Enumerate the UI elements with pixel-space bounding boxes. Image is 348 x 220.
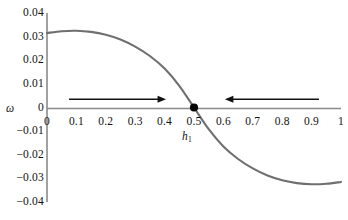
right-arrow-icon	[225, 96, 319, 103]
x-tick-label: 0.8	[271, 116, 293, 128]
x-tick-label: 1	[330, 116, 348, 128]
x-tick-label: 0	[36, 116, 58, 128]
left-arrow-icon	[69, 96, 166, 103]
x-tick-label: 0.9	[301, 116, 323, 128]
x-tick-label: 0.3	[124, 116, 146, 128]
y-tick-label: 0	[38, 102, 44, 114]
y-tick-label: −0.02	[16, 149, 44, 161]
x-tick-label: 0.4	[154, 116, 176, 128]
x-tick-label: 0.6	[212, 116, 234, 128]
chart-figure: ω 0.040.030.020.010−0.01−0.02−0.03−0.04 …	[0, 0, 348, 220]
crossing-point-label-text: h	[182, 130, 188, 142]
y-tick-label: −0.03	[16, 172, 44, 184]
chart-plot-area	[0, 0, 348, 220]
zero-crossing-marker	[190, 103, 198, 111]
x-tick-label: 0.7	[242, 116, 264, 128]
y-tick-label: 0.01	[23, 78, 44, 90]
crossing-point-label: h1	[182, 131, 192, 143]
x-tick-label: 0.1	[65, 116, 87, 128]
y-tick-label: 0.02	[23, 54, 44, 66]
x-tick-label: 0.5	[183, 116, 205, 128]
y-tick-label: −0.04	[16, 196, 44, 208]
y-tick-label: 0.04	[23, 7, 44, 19]
y-axis-title: ω	[6, 103, 14, 115]
crossing-point-label-subscript: 1	[188, 135, 192, 144]
y-tick-label: 0.03	[23, 31, 44, 43]
x-tick-label: 0.2	[95, 116, 117, 128]
